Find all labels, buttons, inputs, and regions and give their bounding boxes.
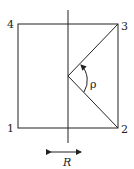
line-to-corner-3 [68, 24, 118, 76]
corner-label-4: 4 [7, 18, 14, 31]
angle-label: ρ [90, 78, 96, 91]
diagram-canvas: 4 3 1 2 ρ R [0, 0, 134, 169]
corner-label-2: 2 [121, 123, 128, 136]
corner-label-1: 1 [7, 122, 14, 135]
corner-label-3: 3 [121, 20, 128, 33]
displacement-label: R [62, 156, 71, 169]
angle-arc-arrow [81, 65, 87, 92]
